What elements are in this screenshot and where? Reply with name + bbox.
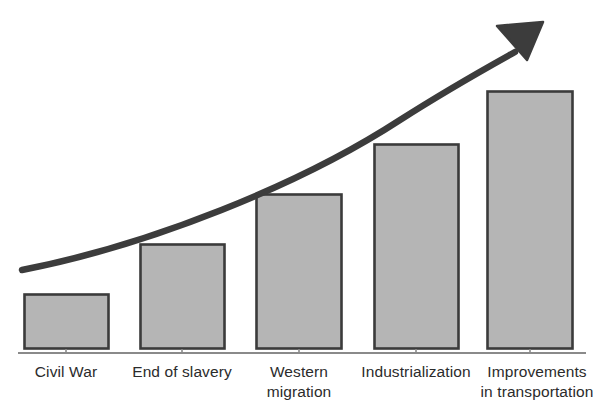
bars-group (25, 92, 573, 349)
bar-end-of-slavery (141, 245, 225, 349)
bar-western-migration (257, 195, 342, 349)
bar-improvements-in-transportation (488, 92, 573, 349)
bar-civil-war (25, 295, 109, 349)
growth-trend-arrow-head (497, 22, 543, 60)
bar-industrialization (375, 145, 459, 349)
bar-chart-figure: Civil War End of slavery Western migrati… (0, 0, 605, 417)
chart-canvas (0, 0, 605, 417)
